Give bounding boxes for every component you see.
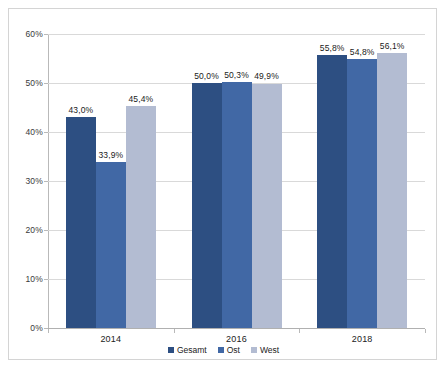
bar-gesamt-2018 — [317, 55, 347, 328]
chart-frame: 0%10%20%30%40%50%60% 43,0%33,9%45,4%50,0… — [8, 8, 437, 360]
plot-area: 43,0%33,9%45,4%50,0%50,3%49,9%55,8%54,8%… — [48, 34, 425, 328]
data-label-west-2018: 56,1% — [372, 41, 412, 51]
legend-label: Ost — [227, 345, 240, 355]
x-axis-tick-mark — [299, 329, 300, 333]
y-axis-tick-label: 20% — [9, 225, 43, 235]
x-axis-tick-mark — [425, 329, 426, 333]
data-label-west-2014: 45,4% — [121, 94, 161, 104]
y-axis-tick-label: 0% — [9, 323, 43, 333]
x-axis-tick-label-2014: 2014 — [48, 334, 174, 344]
data-label-west-2016: 49,9% — [247, 71, 287, 81]
bar-gesamt-2016 — [192, 83, 222, 328]
bar-west-2018 — [377, 53, 407, 328]
chart-legend: GesamtOstWest — [9, 345, 438, 355]
legend-swatch-icon — [168, 347, 174, 353]
x-axis-tick-label-2018: 2018 — [299, 334, 425, 344]
legend-swatch-icon — [251, 347, 257, 353]
x-axis-tick-label-2016: 2016 — [174, 334, 300, 344]
gridline — [48, 328, 425, 329]
x-axis-tick-mark — [48, 329, 49, 333]
x-axis-tick-mark — [174, 329, 175, 333]
y-axis-tick-label: 50% — [9, 78, 43, 88]
y-axis-tick-label: 30% — [9, 176, 43, 186]
legend-label: Gesamt — [177, 345, 207, 355]
legend-entry-west[interactable]: West — [251, 345, 279, 355]
data-label-ost-2014: 33,9% — [91, 150, 131, 160]
bar-west-2014 — [126, 106, 156, 328]
legend-entry-ost[interactable]: Ost — [218, 345, 240, 355]
y-axis-tick-label: 40% — [9, 127, 43, 137]
legend-label: West — [260, 345, 279, 355]
y-axis-tick-label: 10% — [9, 274, 43, 284]
bar-ost-2014 — [96, 162, 126, 328]
legend-entry-gesamt[interactable]: Gesamt — [168, 345, 207, 355]
data-label-gesamt-2014: 43,0% — [61, 105, 101, 115]
bar-west-2016 — [252, 84, 282, 329]
bar-ost-2018 — [347, 59, 377, 328]
bar-ost-2016 — [222, 82, 252, 328]
legend-swatch-icon — [218, 347, 224, 353]
gridline — [48, 34, 425, 35]
y-axis-tick-label: 60% — [9, 29, 43, 39]
